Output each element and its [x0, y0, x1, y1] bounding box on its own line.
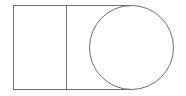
diagram-canvas [0, 0, 186, 96]
